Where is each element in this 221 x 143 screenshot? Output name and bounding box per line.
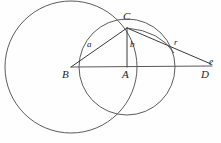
segment-label-a: a bbox=[87, 40, 92, 49]
vertex-label-A: A bbox=[122, 69, 129, 80]
segment-label-b: b bbox=[130, 40, 135, 49]
segment-BC bbox=[71, 28, 127, 67]
diagram-canvas bbox=[0, 0, 221, 143]
segment-label-r: r bbox=[174, 38, 178, 47]
vertex-label-B: B bbox=[62, 69, 69, 80]
vertex-label-C: C bbox=[123, 11, 130, 22]
segment-BD bbox=[71, 66, 212, 67]
vertex-label-e: e bbox=[209, 58, 213, 68]
geometry-diagram: B A C D e a b r bbox=[0, 0, 221, 143]
vertex-label-D: D bbox=[201, 69, 209, 80]
